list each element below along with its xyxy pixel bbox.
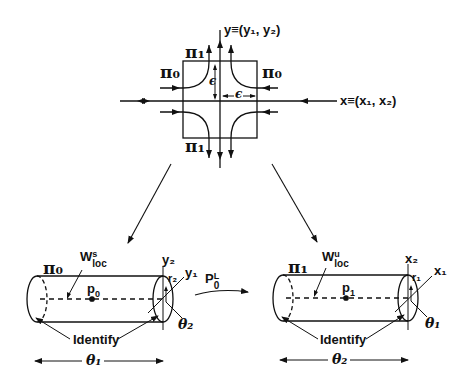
point-p0-label: p0 — [87, 282, 100, 299]
theta2-angle-label: θ₂ — [178, 317, 193, 331]
pi0-left-label: π₀ — [160, 64, 180, 81]
poincare-map-label: PL0 — [205, 272, 219, 290]
pi0-right-label: π₀ — [262, 64, 282, 81]
y1-label: y₁ — [185, 266, 198, 279]
unstable-manifold-label: Wuloc — [322, 250, 349, 268]
point-p1-label: p1 — [342, 281, 355, 298]
epsilon-horizontal-label: ϵ — [234, 88, 243, 100]
diagram-canvas — [0, 0, 470, 389]
flow-lr — [231, 112, 278, 158]
right-span-theta2-label: θ₂ — [332, 352, 347, 366]
x-axis-label: x≡(x₁, x₂) — [340, 94, 396, 107]
poincare-map-arrow — [195, 291, 248, 295]
y2-label: y₂ — [162, 253, 175, 266]
arrow-to-right-cylinder — [272, 164, 317, 242]
pi1-top-label: π₁ — [185, 44, 205, 61]
right-cylinder-pi1-label: π₁ — [288, 259, 308, 276]
arrow-to-left-cylinder — [128, 164, 171, 243]
left-cylinder-pi0-label: π₀ — [43, 260, 63, 277]
theta1-angle-label: θ₁ — [425, 316, 440, 330]
left-identify-label: Identify — [73, 333, 119, 346]
x2-label: x₂ — [405, 252, 418, 265]
left-span-theta1-label: θ₁ — [86, 353, 101, 367]
saddle-neighborhood — [120, 30, 337, 168]
epsilon-vertical-label: ϵ — [209, 75, 216, 87]
right-identify-label: Identify — [320, 333, 366, 346]
pi1-bottom-label: π₁ — [185, 138, 205, 155]
r1-label: r₁ — [412, 272, 421, 283]
x1-label: x₁ — [434, 264, 447, 277]
y-axis-label: y≡(y₁, y₂) — [224, 23, 280, 36]
stable-manifold-label: Wsloc — [80, 250, 107, 268]
r2-label: r₂ — [168, 273, 177, 284]
